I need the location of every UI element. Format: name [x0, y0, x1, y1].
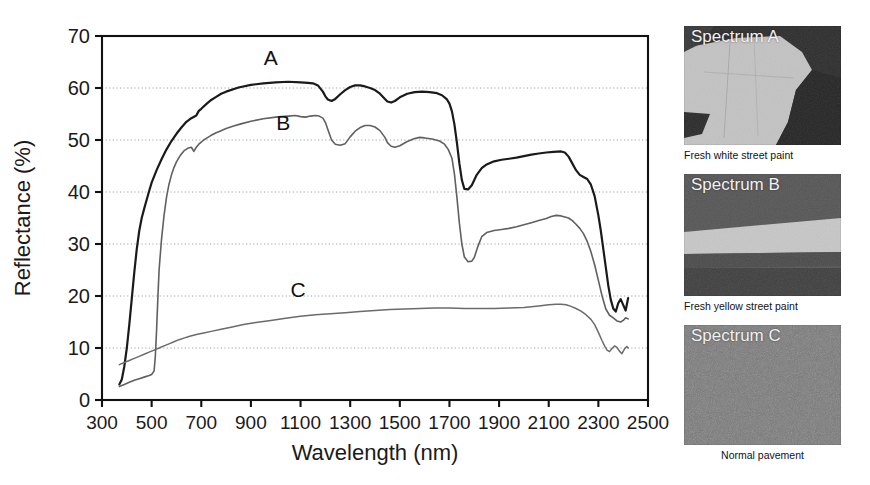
- x-tick-label: 1500: [379, 412, 421, 433]
- photo-caption-a: Fresh white street paint: [684, 149, 841, 161]
- x-tick-label: 300: [86, 412, 118, 433]
- x-tick-label: 700: [185, 412, 217, 433]
- series-line-C: [119, 304, 628, 364]
- photo-frame-spectrum-b: Spectrum B: [684, 174, 841, 296]
- photo-image-white-paint: [684, 26, 841, 145]
- x-axis-title: Wavelength (nm): [292, 440, 459, 465]
- photo-block-spectrum-c: Spectrum C Normal pavement: [684, 325, 841, 461]
- curve-label-B: B: [276, 111, 290, 134]
- y-tick-label: 20: [68, 285, 90, 307]
- photo-frame-spectrum-a: Spectrum A: [684, 26, 841, 145]
- y-tick-label: 30: [68, 233, 90, 255]
- series-group: [119, 82, 628, 387]
- photo-image-yellow-stripe: [684, 174, 841, 296]
- y-tick-label: 50: [68, 129, 90, 151]
- x-tick-label: 1300: [329, 412, 371, 433]
- photo-block-spectrum-a: Spectrum A Fresh white street paint: [684, 26, 841, 161]
- y-tick-label: 40: [68, 181, 90, 203]
- x-tick-label: 2100: [528, 412, 570, 433]
- x-axis: 3005007009001100130015001700190021002300…: [86, 400, 669, 433]
- chart-canvas: 0102030405060703005007009001100130015001…: [0, 0, 672, 485]
- series-line-B: [119, 116, 628, 387]
- x-tick-label: 500: [136, 412, 168, 433]
- x-tick-label: 1900: [478, 412, 520, 433]
- curve-label-C: C: [290, 278, 305, 301]
- reflectance-spectra-figure: 0102030405060703005007009001100130015001…: [0, 0, 870, 485]
- y-tick-label: 60: [68, 77, 90, 99]
- y-tick-label: 10: [68, 337, 90, 359]
- photo-block-spectrum-b: Spectrum B Fresh yellow street paint: [684, 174, 841, 312]
- photo-image-pavement: [684, 325, 841, 445]
- x-tick-label: 1700: [428, 412, 470, 433]
- sample-photo-panel: Spectrum A Fresh white street paint: [684, 26, 844, 466]
- photo-frame-spectrum-c: Spectrum C: [684, 325, 841, 445]
- y-axis-title: Reflectance (%): [10, 140, 35, 297]
- x-tick-label: 2500: [627, 412, 669, 433]
- photo-caption-b: Fresh yellow street paint: [684, 300, 841, 312]
- photo-caption-c: Normal pavement: [684, 449, 841, 461]
- curve-annotations: ABC: [264, 46, 306, 301]
- y-tick-label: 70: [68, 25, 90, 47]
- curve-label-A: A: [264, 46, 278, 69]
- spectra-line-chart: 0102030405060703005007009001100130015001…: [0, 0, 672, 485]
- x-tick-label: 900: [235, 412, 267, 433]
- x-tick-label: 2300: [577, 412, 619, 433]
- x-tick-label: 1100: [280, 412, 321, 433]
- y-axis: 010203040506070: [68, 25, 102, 411]
- y-tick-label: 0: [79, 389, 90, 411]
